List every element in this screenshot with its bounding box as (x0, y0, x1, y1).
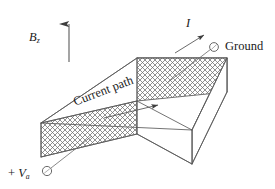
magnetic-field-subscript: z (37, 36, 40, 45)
hall-effect-figure: Bz I Ground + Va Current path (0, 0, 275, 189)
applied-voltage-subscript: a (26, 172, 30, 181)
current-arrow (175, 35, 204, 53)
magnetic-field-symbol: B (29, 30, 37, 44)
applied-voltage-symbol: V (18, 166, 26, 180)
figure-canvas (0, 0, 275, 189)
ground-label: Ground (225, 40, 263, 53)
applied-voltage-label: + Va (8, 167, 30, 181)
current-label: I (186, 17, 190, 30)
applied-voltage-prefix: + (8, 166, 18, 180)
magnetic-field-label: Bz (29, 31, 40, 45)
